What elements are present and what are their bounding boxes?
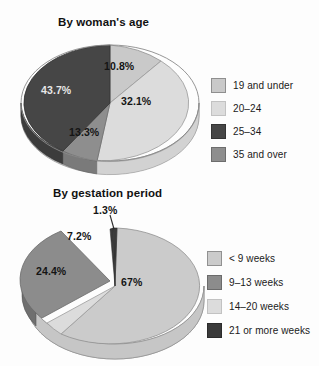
legend-swatch-icon <box>211 147 226 162</box>
legend-item-less-than-9-weeks[interactable]: < 9 weeks <box>207 246 310 270</box>
legend-swatch-icon <box>211 78 226 93</box>
legend-item-25-34[interactable]: 25–34 <box>211 120 293 143</box>
legend-label: 9–13 weeks <box>229 277 283 288</box>
pie-chart-by-gestation-period: By gestation period 1.3% <box>0 183 319 366</box>
pie-slice-label-less-than-9-weeks: 67% <box>121 276 142 288</box>
legend-label: 14–20 weeks <box>229 301 289 312</box>
legend-label: 20–24 <box>233 103 261 114</box>
legend-item-14-20-weeks[interactable]: 14–20 weeks <box>207 294 310 318</box>
legend-swatch-icon <box>207 251 222 266</box>
legend-item-20-24[interactable]: 20–24 <box>211 97 293 120</box>
pie-slice-label-25-34: 43.7% <box>41 84 71 96</box>
legend-label: 21 or more weeks <box>229 325 310 336</box>
legend-swatch-icon <box>207 299 222 314</box>
legend-swatch-icon <box>207 275 222 290</box>
legend-label: < 9 weeks <box>229 253 275 264</box>
pie-slice-label-35-and-over: 13.3% <box>69 126 99 138</box>
legend-swatch-icon <box>211 101 226 116</box>
pie-chart-by-womans-age: By woman's age <box>0 0 319 183</box>
pie-slice-label-19-and-under: 10.8% <box>104 60 134 72</box>
leader-line-21-or-more-weeks <box>110 215 114 229</box>
legend-label: 25–34 <box>233 126 261 137</box>
legend-item-35-and-over[interactable]: 35 and over <box>211 143 293 166</box>
legend-gestation: < 9 weeks 9–13 weeks 14–20 weeks 21 or m… <box>207 246 310 342</box>
legend-item-21-or-more-weeks[interactable]: 21 or more weeks <box>207 318 310 342</box>
legend-item-9-13-weeks[interactable]: 9–13 weeks <box>207 270 310 294</box>
legend-item-19-and-under[interactable]: 19 and under <box>211 74 293 97</box>
legend-label: 35 and over <box>233 149 287 160</box>
pie-slice-label-14-20-weeks: 7.2% <box>67 230 91 242</box>
pie-slice-label-20-24: 32.1% <box>121 95 151 107</box>
legend-age: 19 and under 20–24 25–34 35 and over <box>211 74 293 166</box>
legend-swatch-icon <box>207 323 222 338</box>
pie-slice-label-9-13-weeks: 24.4% <box>36 265 66 277</box>
pie-slice-label-21-or-more-weeks: 1.3% <box>93 204 117 216</box>
legend-swatch-icon <box>211 124 226 139</box>
legend-label: 19 and under <box>233 80 293 91</box>
